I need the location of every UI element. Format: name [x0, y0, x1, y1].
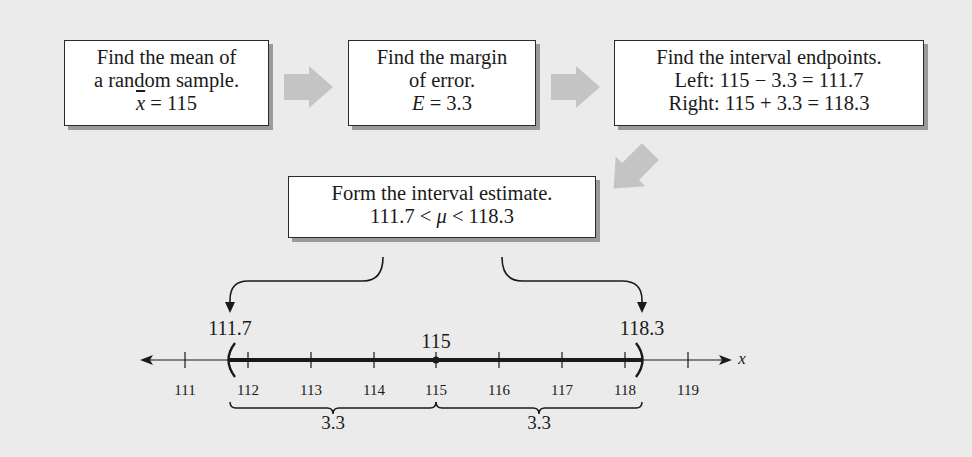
- tick-label-119: 119: [677, 382, 699, 399]
- tick-label-114: 114: [363, 382, 385, 399]
- left-span-label: 3.3: [321, 412, 345, 434]
- flow-arrow-right-2-icon: [551, 66, 600, 108]
- tick-label-117: 117: [551, 382, 573, 399]
- step-mean-line1: Find the mean of: [65, 46, 268, 69]
- mu-symbol: μ: [436, 205, 446, 227]
- x-bar-symbol: x: [136, 92, 145, 114]
- step-estimate-line1: Form the interval estimate.: [289, 182, 595, 205]
- mean-point-icon: [433, 357, 440, 364]
- connector-arrow-right-endpoint-icon: [502, 257, 647, 313]
- step-margin-line2: of error.: [349, 69, 535, 92]
- tick-label-112: 112: [237, 382, 259, 399]
- e-symbol: E: [412, 92, 425, 114]
- margin-value: = 3.3: [425, 92, 472, 114]
- mean-value: = 115: [145, 92, 197, 114]
- axis-arrow-right-icon: [719, 355, 732, 365]
- axis-arrow-left-icon: [140, 355, 153, 365]
- right-endpoint-label: 118.3: [620, 317, 664, 340]
- step-box-find-mean: Find the mean of a random sample. x = 11…: [64, 40, 269, 126]
- flow-arrow-right-1-icon: [284, 66, 333, 108]
- estimate-upper: < 118.3: [447, 205, 514, 227]
- step-mean-equation: x = 115: [65, 92, 268, 115]
- step-box-margin-of-error: Find the margin of error. E = 3.3: [348, 40, 536, 126]
- left-endpoint-label: 111.7: [208, 317, 252, 340]
- step-estimate-inequality: 111.7 < μ < 118.3: [289, 205, 595, 228]
- tick-label-116: 116: [488, 382, 510, 399]
- step-endpoints-right: Right: 115 + 3.3 = 118.3: [615, 92, 923, 115]
- tick-label-111: 111: [174, 382, 195, 399]
- right-span-label: 3.3: [527, 412, 551, 434]
- step-box-interval-estimate: Form the interval estimate. 111.7 < μ < …: [288, 176, 596, 238]
- axis-ticks: [185, 352, 688, 368]
- step-mean-line2: a random sample.: [65, 69, 268, 92]
- step-endpoints-left: Left: 115 − 3.3 = 111.7: [615, 69, 923, 92]
- connector-arrow-left-endpoint-icon: [225, 257, 383, 313]
- step-margin-equation: E = 3.3: [349, 92, 535, 115]
- axis-variable-label: x: [738, 349, 746, 369]
- left-open-paren-icon: [229, 343, 236, 377]
- right-open-paren-icon: [636, 343, 643, 377]
- tick-label-115: 115: [425, 382, 447, 399]
- step-endpoints-line1: Find the interval endpoints.: [615, 46, 923, 69]
- tick-label-118: 118: [614, 382, 636, 399]
- step-box-interval-endpoints: Find the interval endpoints. Left: 115 −…: [614, 40, 924, 126]
- tick-label-113: 113: [300, 382, 322, 399]
- step-margin-line1: Find the margin: [349, 46, 535, 69]
- mean-label: 115: [421, 330, 450, 353]
- flow-arrow-down-left-icon: [599, 137, 665, 203]
- estimate-lower: 111.7 <: [370, 205, 436, 227]
